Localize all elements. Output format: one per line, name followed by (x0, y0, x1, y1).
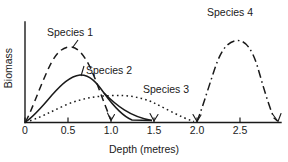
species-4-curve (197, 40, 278, 121)
series-label-species-4: Species 4 (207, 6, 253, 18)
x-tick-label-1.0: 1.0 (104, 124, 119, 136)
y-axis-title: Biomass (2, 33, 14, 103)
x-tick-label-2.5: 2.5 (233, 124, 248, 136)
chart-plot-area (0, 0, 288, 162)
series-label-species-2: Species 2 (86, 64, 132, 76)
species-2-curve-tail (104, 93, 152, 121)
x-tick-label-0.5: 0.5 (61, 124, 76, 136)
biomass-depth-chart: 0 0.5 1.0 1.5 2.0 2.5 Species 1 Species … (0, 0, 288, 162)
x-tick-label-0: 0 (22, 124, 28, 136)
x-tick-label-1.5: 1.5 (147, 124, 162, 136)
x-axis-title: Depth (metres) (0, 143, 288, 155)
series-label-species-1: Species 1 (47, 26, 93, 38)
series-label-species-3: Species 3 (143, 83, 189, 95)
species-1-leader (73, 40, 78, 47)
x-tick-label-2.0: 2.0 (190, 124, 205, 136)
species-4-arrowhead (273, 114, 282, 122)
species-1-arrowhead (108, 113, 115, 121)
